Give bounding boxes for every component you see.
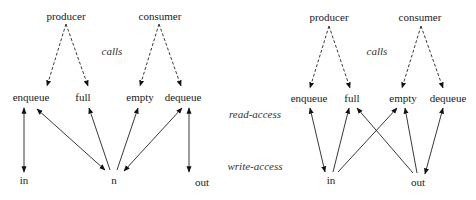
left-access-dequeue-n [124, 108, 182, 171]
right-empty-label: empty [389, 92, 417, 104]
right-dequeue-label: dequeue [430, 92, 467, 104]
right-in-label: in [327, 174, 336, 186]
left-call-producer-enqueue [47, 24, 66, 86]
right-call-producer-enqueue [310, 26, 329, 88]
left-in-label: in [20, 174, 29, 186]
right-full-label: full [344, 92, 359, 104]
left-diagram: producer consumer enqueue full empty deq… [13, 10, 209, 188]
left-access-enqueue-n [37, 109, 105, 170]
right-out-label: out [411, 176, 425, 188]
left-out-label: out [195, 176, 209, 188]
read-access-label: read-access [229, 108, 281, 120]
left-call-producer-full [66, 24, 88, 86]
right-access-out-full [357, 108, 413, 173]
right-enqueue-label: enqueue [291, 92, 328, 104]
left-consumer-label: consumer [139, 10, 182, 22]
left-producer-label: producer [46, 10, 85, 22]
left-call-consumer-dequeue [159, 24, 181, 86]
right-calls-label: calls [367, 45, 388, 57]
left-enqueue-label: enqueue [13, 91, 50, 103]
right-consumer-label: consumer [399, 11, 442, 23]
right-access-enqueue-in [310, 108, 325, 172]
right-producer-label: producer [309, 11, 348, 23]
left-empty-label: empty [126, 91, 154, 103]
left-n-label: n [111, 174, 117, 186]
right-access-dequeue-out [425, 108, 443, 174]
write-access-label: write-access [228, 160, 283, 172]
left-access-n-empty [117, 108, 138, 170]
right-access-out-empty [405, 108, 417, 173]
left-full-label: full [75, 91, 90, 103]
left-dequeue-label: dequeue [165, 91, 202, 103]
left-call-consumer-empty [140, 24, 159, 86]
right-diagram: producer consumer calls enqueue full emp… [291, 11, 467, 188]
diagram-canvas: producer consumer enqueue full empty deq… [0, 0, 476, 200]
left-calls-label: calls [102, 45, 123, 57]
left-access-n-full [89, 108, 110, 170]
right-call-producer-full [329, 26, 350, 88]
right-call-consumer-empty [402, 26, 421, 88]
right-call-consumer-dequeue [421, 26, 443, 88]
